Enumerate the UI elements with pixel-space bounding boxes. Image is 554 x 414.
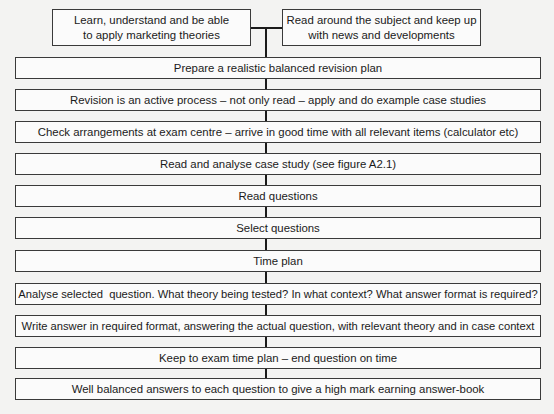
connector xyxy=(265,207,267,217)
node-write-answer: Write answer in required format, answeri… xyxy=(15,315,541,337)
connector xyxy=(265,143,267,153)
node-active-revision: Revision is an active process – not only… xyxy=(15,89,541,111)
node-label: Prepare a realistic balanced revision pl… xyxy=(174,61,382,75)
connector xyxy=(265,305,267,315)
node-label: Well balanced answers to each question t… xyxy=(72,382,485,396)
node-select-questions: Select questions xyxy=(15,217,541,239)
node-label-line: Read around the subject and keep up xyxy=(287,13,477,28)
connector xyxy=(265,239,267,250)
connector xyxy=(265,369,267,378)
node-analyse-question: Analyse selected question. What theory b… xyxy=(15,283,541,305)
node-label: Time plan xyxy=(253,254,303,268)
connector xyxy=(265,79,267,89)
connector xyxy=(265,175,267,185)
node-time-plan: Time plan xyxy=(15,250,541,272)
node-read-questions: Read questions xyxy=(15,185,541,207)
node-label: Select questions xyxy=(236,221,320,235)
node-case-study: Read and analyse case study (see figure … xyxy=(15,153,541,175)
connector-top-to-plan xyxy=(265,27,267,57)
connector xyxy=(265,111,267,121)
node-revision-plan: Prepare a realistic balanced revision pl… xyxy=(15,57,541,79)
node-keep-time: Keep to exam time plan – end question on… xyxy=(15,347,541,369)
connector xyxy=(265,337,267,347)
node-label: Read and analyse case study (see figure … xyxy=(160,157,396,171)
node-label: Keep to exam time plan – end question on… xyxy=(159,351,397,365)
node-learn-theories: Learn, understand and be able to apply m… xyxy=(52,9,251,46)
node-label-line: with news and developments xyxy=(308,28,454,43)
node-read-around-subject: Read around the subject and keep up with… xyxy=(282,9,481,46)
node-label: Write answer in required format, answeri… xyxy=(22,319,535,333)
node-label: Read questions xyxy=(238,189,317,203)
node-label: Check arrangements at exam centre – arri… xyxy=(38,125,519,139)
node-label-line: to apply marketing theories xyxy=(83,28,220,43)
node-label: Analyse selected question. What theory b… xyxy=(18,287,537,301)
node-label-line: Learn, understand and be able xyxy=(74,13,229,28)
node-label: Revision is an active process – not only… xyxy=(70,93,486,107)
connector xyxy=(265,272,267,283)
node-check-arrangements: Check arrangements at exam centre – arri… xyxy=(15,121,541,143)
node-well-balanced: Well balanced answers to each question t… xyxy=(15,378,541,400)
